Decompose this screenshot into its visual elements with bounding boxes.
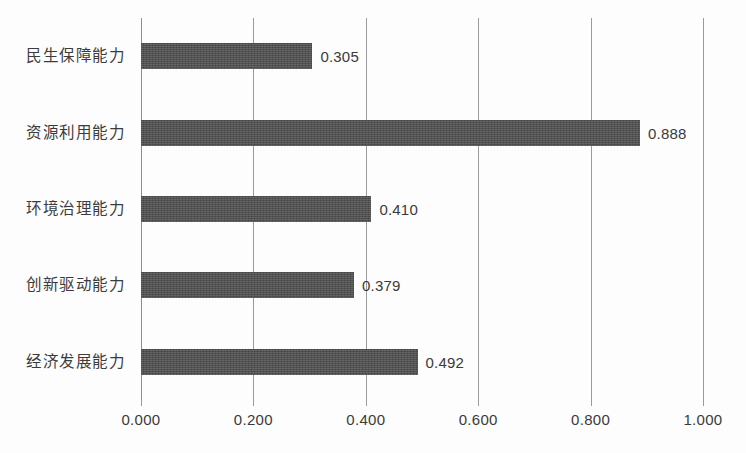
x-tick-label: 0.200 bbox=[234, 411, 273, 428]
bar-value-label: 0.305 bbox=[320, 49, 359, 64]
x-tick-label: 0.000 bbox=[121, 411, 160, 428]
bar bbox=[141, 196, 371, 222]
x-tick-label: 0.800 bbox=[571, 411, 610, 428]
category-axis-labels: 民生保障能力资源利用能力环境治理能力创新驱动能力经济发展能力 bbox=[0, 18, 133, 400]
bar-value-label: 0.379 bbox=[362, 278, 401, 293]
gridline-0.800 bbox=[591, 18, 592, 400]
bar-value-label: 0.888 bbox=[648, 126, 687, 141]
category-label: 环境治理能力 bbox=[0, 201, 125, 217]
bar bbox=[141, 349, 418, 375]
x-tick-mark bbox=[591, 400, 592, 406]
x-tick-mark bbox=[366, 400, 367, 406]
x-tick-label: 1.000 bbox=[683, 411, 722, 428]
x-tick-label: 0.400 bbox=[346, 411, 385, 428]
bar-chart: 民生保障能力资源利用能力环境治理能力创新驱动能力经济发展能力 0.3050.88… bbox=[0, 0, 746, 453]
x-tick-mark bbox=[141, 400, 142, 406]
x-tick-mark bbox=[253, 400, 254, 406]
bar-value-label: 0.410 bbox=[379, 202, 418, 217]
x-tick-mark bbox=[478, 400, 479, 406]
category-label: 资源利用能力 bbox=[0, 125, 125, 141]
bar bbox=[141, 272, 354, 298]
category-label: 经济发展能力 bbox=[0, 354, 125, 370]
gridline-0.600 bbox=[478, 18, 479, 400]
x-tick-mark bbox=[703, 400, 704, 406]
x-tick-label: 0.600 bbox=[459, 411, 498, 428]
bar-value-label: 0.492 bbox=[426, 355, 465, 370]
plot-area: 0.3050.8880.4100.3790.492 bbox=[141, 18, 703, 400]
x-axis: 0.0000.2000.4000.6000.8001.000 bbox=[141, 400, 703, 440]
gridline-1.000 bbox=[703, 18, 704, 400]
bar bbox=[141, 43, 312, 69]
category-label: 民生保障能力 bbox=[0, 48, 125, 64]
category-label: 创新驱动能力 bbox=[0, 277, 125, 293]
bar bbox=[141, 120, 640, 146]
